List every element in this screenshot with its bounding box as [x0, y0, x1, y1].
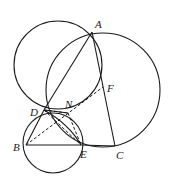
- label-A: A: [94, 18, 102, 30]
- label-D: D: [29, 106, 38, 118]
- solid-segments-group: [26, 32, 115, 146]
- label-E: E: [79, 148, 87, 160]
- circle-left: [14, 21, 102, 109]
- geometry-diagram: AFNDBEC: [0, 0, 169, 176]
- circles-group: [14, 21, 160, 173]
- label-N: N: [64, 98, 73, 110]
- label-F: F: [106, 82, 114, 94]
- circle-right: [46, 33, 160, 147]
- label-C: C: [116, 149, 124, 161]
- point-labels-group: AFNDBEC: [13, 18, 124, 161]
- label-B: B: [13, 141, 20, 153]
- circle-small: [23, 113, 83, 173]
- diagram-svg: AFNDBEC: [0, 0, 169, 176]
- segment-EC: [81, 145, 115, 146]
